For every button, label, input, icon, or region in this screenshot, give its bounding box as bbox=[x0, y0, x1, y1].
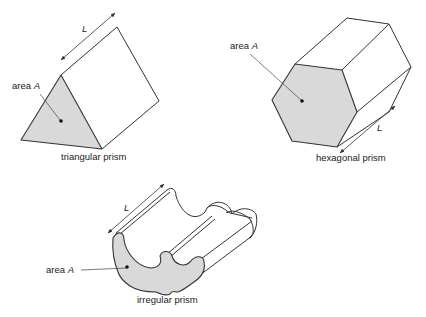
hexagonal-prism-cross-section bbox=[272, 64, 357, 147]
hexagonal-area-label: area A bbox=[230, 40, 258, 51]
triangular-area-label: area A bbox=[12, 80, 40, 91]
irregular-area-label: area A bbox=[46, 264, 74, 275]
triangular-length-label: L bbox=[82, 23, 87, 34]
triangular-prism-caption: triangular prism bbox=[61, 151, 127, 162]
triangular-prism: L area A triangular prism bbox=[12, 13, 159, 162]
irregular-area-dot bbox=[125, 265, 129, 269]
hexagonal-prism: L area A hexagonal prism bbox=[230, 18, 411, 163]
irregular-prism-caption: irregular prism bbox=[137, 294, 198, 305]
hexagonal-prism-caption: hexagonal prism bbox=[316, 152, 386, 163]
triangular-length-arrow bbox=[61, 13, 115, 60]
prisms-diagram: L area A triangular prism L area A hexag… bbox=[0, 0, 426, 317]
triangular-area-dot bbox=[59, 119, 63, 123]
irregular-length-label: L bbox=[124, 202, 129, 213]
hexagonal-length-label: L bbox=[377, 122, 382, 133]
irregular-length-arrow bbox=[108, 184, 164, 233]
hexagonal-area-dot bbox=[300, 99, 304, 103]
irregular-prism-back-profile bbox=[207, 202, 257, 238]
irregular-prism-cross-section bbox=[113, 233, 205, 295]
irregular-prism: L area A irregular prism bbox=[46, 184, 257, 305]
